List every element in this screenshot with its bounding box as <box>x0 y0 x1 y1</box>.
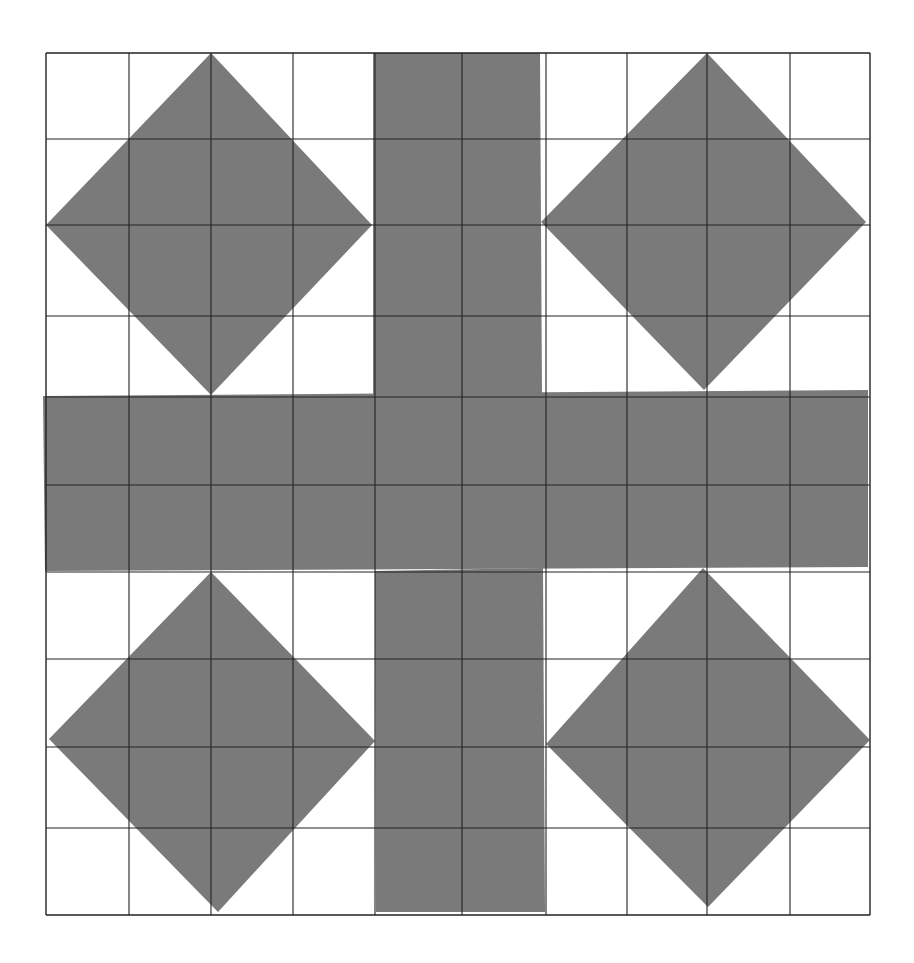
cross-vertical-bottom <box>375 568 545 912</box>
gray-shapes <box>43 53 870 912</box>
grid-figure <box>0 0 914 963</box>
cross-horizontal-band <box>43 390 868 571</box>
